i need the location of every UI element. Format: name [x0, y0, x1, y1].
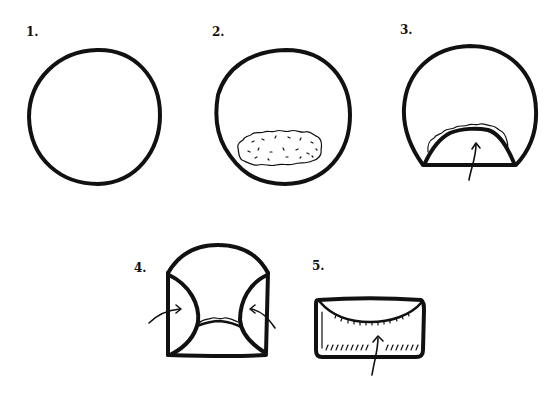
packet-flap — [320, 302, 422, 322]
folding-diagram — [0, 0, 558, 398]
step-4-figure — [149, 245, 275, 356]
bottom-hatching — [326, 345, 418, 350]
step-2-figure — [216, 50, 350, 184]
top-arc — [168, 245, 268, 273]
right-edge — [266, 273, 268, 353]
dough-circle — [29, 50, 160, 184]
folded-flap — [425, 129, 514, 163]
step-1-figure — [29, 50, 160, 184]
bottom-edge — [168, 355, 266, 356]
filling — [238, 130, 322, 165]
step-3-figure — [404, 46, 536, 180]
filling-texture — [248, 136, 317, 160]
dough-outline — [404, 46, 536, 165]
left-fold-arrow — [149, 309, 180, 323]
step-5-figure — [316, 299, 424, 376]
left-flap — [169, 275, 198, 355]
bottom-flap — [197, 321, 241, 327]
